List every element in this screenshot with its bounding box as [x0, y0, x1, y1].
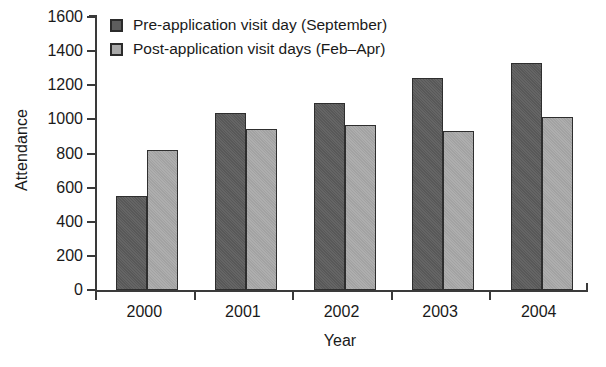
bar-2000-post [147, 150, 178, 290]
chart-legend: Pre-application visit day (September) Po… [110, 14, 387, 62]
x-axis-tick-label: 2004 [492, 303, 586, 321]
y-axis-tick-label: 400 [5, 213, 83, 231]
y-axis-tick-label: 0 [5, 281, 83, 299]
x-axis-title: Year [90, 332, 590, 350]
bar-2002-pre [314, 103, 345, 290]
bar-2003-post [443, 131, 474, 290]
bar-chart: Attendance 02004006008001000120014001600… [0, 0, 606, 367]
x-axis-tick [95, 291, 97, 300]
bar-2004-post [542, 117, 573, 290]
x-axis-tick [194, 291, 196, 300]
legend-label-post: Post-application visit days (Feb–Apr) [133, 40, 385, 58]
x-axis-tick [489, 291, 491, 300]
y-axis-tick-label: 600 [5, 179, 83, 197]
y-axis-tick-label: 200 [5, 247, 83, 265]
x-axis-tick [391, 291, 393, 300]
x-axis-line [95, 290, 588, 292]
bar-2002-post [345, 125, 376, 290]
x-axis-tick-label: 2000 [97, 303, 191, 321]
bar-2003-pre [412, 78, 443, 290]
bar-2004-pre [511, 63, 542, 290]
legend-item-post-application: Post-application visit days (Feb–Apr) [110, 38, 387, 60]
legend-item-pre-application: Pre-application visit day (September) [110, 14, 387, 36]
legend-swatch-icon-pre [110, 19, 123, 32]
bar-2001-post [246, 129, 277, 290]
legend-swatch-icon-post [110, 43, 123, 56]
y-axis-tick-label: 1600 [5, 8, 83, 26]
bar-2001-pre [215, 113, 246, 290]
x-axis-tick-label: 2001 [196, 303, 290, 321]
legend-label-pre: Pre-application visit day (September) [133, 16, 387, 34]
y-axis-tick-label: 800 [5, 145, 83, 163]
x-axis-tick-label: 2003 [393, 303, 487, 321]
y-axis-tick-label: 1400 [5, 42, 83, 60]
y-axis-tick-labels: 02004006008001000120014001600 [0, 0, 83, 367]
bar-2000-pre [116, 196, 147, 290]
y-axis-tick-label: 1000 [5, 110, 83, 128]
x-axis-tick-label: 2002 [295, 303, 389, 321]
x-axis-tick [292, 291, 294, 300]
y-axis-tick-label: 1200 [5, 76, 83, 94]
